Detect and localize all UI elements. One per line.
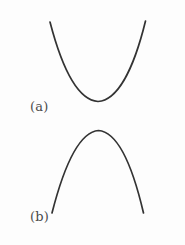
figure-container: (a) (b) xyxy=(0,0,185,245)
panel-label-a: (a) xyxy=(30,100,49,113)
parabola-pair-plot xyxy=(0,0,185,245)
panel-label-b: (b) xyxy=(30,210,49,223)
curve-b-downward-parabola xyxy=(52,131,144,214)
curve-a-upward-parabola xyxy=(50,21,146,102)
